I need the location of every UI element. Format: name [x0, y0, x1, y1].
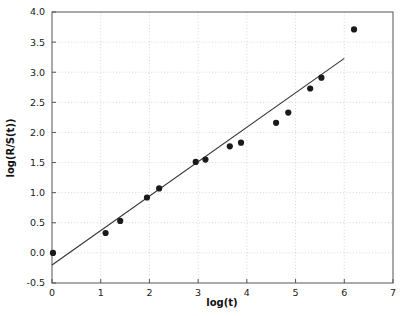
y-tick-label: 0.5 [30, 217, 45, 228]
data-point [351, 26, 357, 32]
x-tick-label: 0 [49, 287, 55, 298]
data-point [273, 120, 279, 126]
y-axis-title: log(R/S(t)) [5, 118, 16, 177]
data-point [117, 218, 123, 224]
x-tick-label: 1 [98, 287, 104, 298]
x-tick-label: 6 [341, 287, 347, 298]
data-point [285, 109, 291, 115]
data-point [307, 85, 313, 91]
data-point [102, 230, 108, 236]
x-tick-label: 7 [390, 287, 396, 298]
data-point [50, 250, 56, 256]
y-tick-label: 3.0 [30, 67, 45, 78]
x-tick-label: 4 [244, 287, 250, 298]
figure-canvas: 01234567 -0.50.00.51.01.52.02.53.03.54.0… [0, 0, 407, 316]
y-tick-label: 3.5 [30, 37, 45, 48]
axes-background [52, 12, 393, 283]
data-point [193, 159, 199, 165]
scatter-plot: 01234567 -0.50.00.51.01.52.02.53.03.54.0… [0, 0, 407, 316]
data-point [227, 143, 233, 149]
y-tick-label: 2.5 [30, 97, 45, 108]
data-point [318, 75, 324, 81]
y-tick-label: 1.5 [30, 157, 45, 168]
x-axis-title: log(t) [206, 297, 237, 308]
x-tick-label: 2 [146, 287, 152, 298]
x-tick-label: 5 [293, 287, 299, 298]
y-tick-label: -0.5 [26, 277, 45, 288]
y-tick-label: 2.0 [30, 127, 45, 138]
data-point [238, 140, 244, 146]
y-tick-label: 1.0 [30, 187, 45, 198]
data-point [156, 185, 162, 191]
data-point [202, 156, 208, 162]
y-tick-label: 4.0 [30, 6, 45, 17]
x-tick-label: 3 [195, 287, 201, 298]
y-tick-label: 0.0 [30, 247, 45, 258]
data-point [144, 194, 150, 200]
